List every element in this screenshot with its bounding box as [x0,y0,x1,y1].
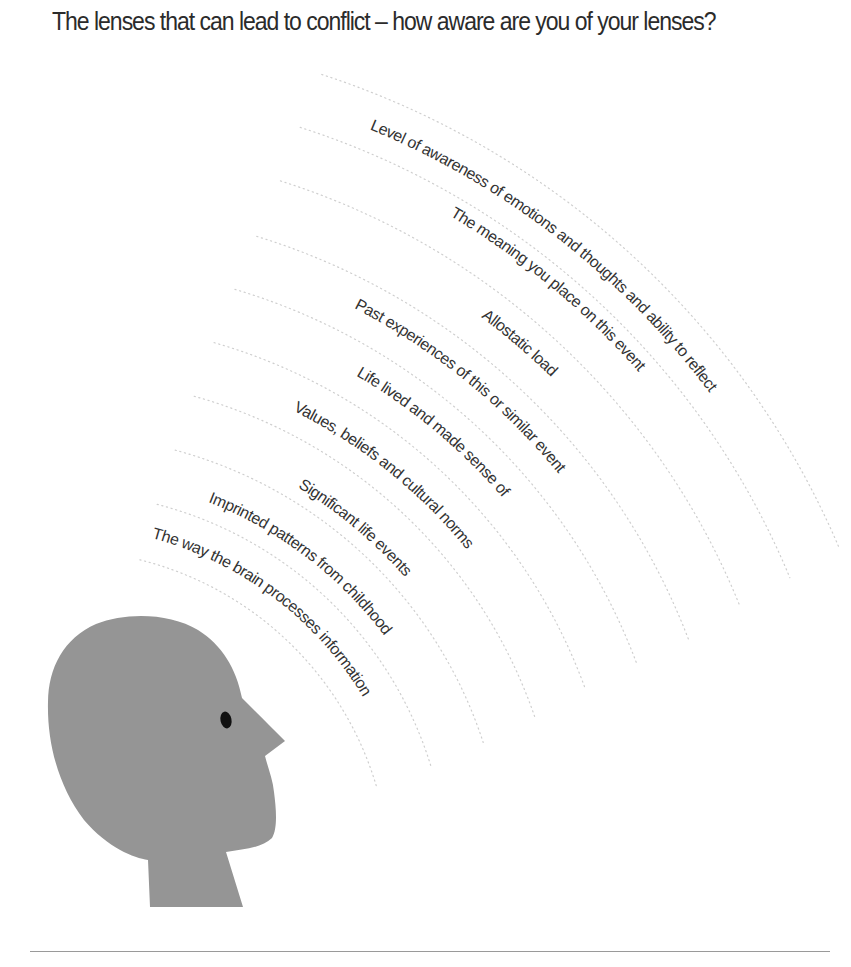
bottom-divider [30,951,830,952]
head-silhouette-icon [48,616,285,907]
lens-labels: Level of awareness of emotions and thoug… [151,116,721,698]
head-shape [48,616,285,907]
lenses-diagram: Level of awareness of emotions and thoug… [0,0,851,967]
lens-label-values: Values, beliefs and cultural norms [292,398,478,551]
lens-label-allostatic: Allostatic load [479,306,560,379]
